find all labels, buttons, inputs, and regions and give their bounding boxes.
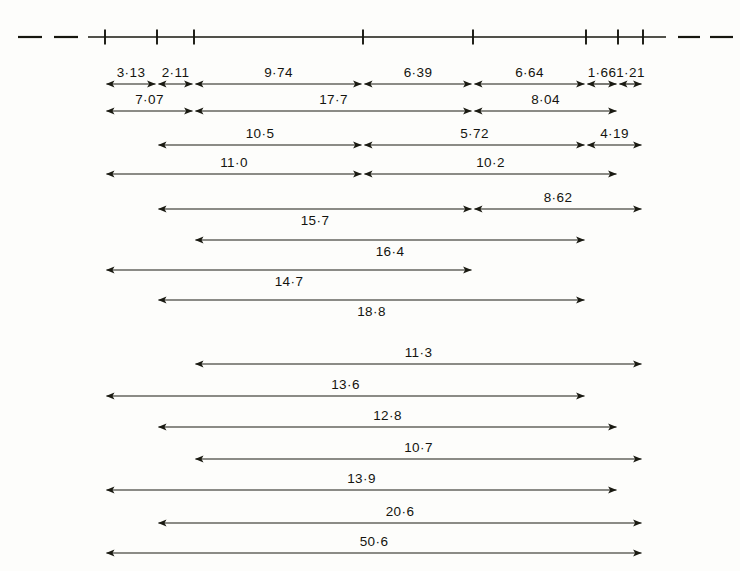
dimension-diagram-figure: 3·132·119·746·396·641·661·217·0717·78·04… <box>0 0 740 571</box>
dimension-value-label: 14·7 <box>275 274 304 289</box>
dimension-value-label: 9·74 <box>264 65 293 80</box>
dimension-segment: 50·6 <box>107 534 642 553</box>
dimension-value-label: 13·9 <box>347 471 376 486</box>
dimension-value-label: 8·62 <box>544 190 573 205</box>
dimension-value-label: 1·21 <box>616 65 645 80</box>
dimension-value-label: 11·0 <box>220 155 248 170</box>
dimension-value-label: 8·04 <box>531 92 560 107</box>
dimension-row: 11·3 <box>196 345 642 364</box>
dimension-value-label: 2·11 <box>162 65 190 80</box>
dimension-value-label: 4·19 <box>600 126 629 141</box>
dimension-row: 20·6 <box>159 504 642 523</box>
dimension-segment: 3·13 <box>107 65 156 84</box>
dimension-segment: 10·2 <box>365 155 617 174</box>
dimension-segment: 13·6 <box>107 377 585 396</box>
dimension-value-label: 11·3 <box>405 345 433 360</box>
dimension-segment: 2·11 <box>159 65 193 84</box>
dimension-segment: 13·9 <box>107 471 617 490</box>
dimension-segment: 16·4 <box>196 240 585 259</box>
dimension-segment: 17·7 <box>196 92 472 111</box>
dimension-row: 11·010·2 <box>107 155 617 174</box>
dimension-value-label: 3·13 <box>117 65 146 80</box>
dimension-segment: 10·7 <box>196 440 642 459</box>
dimension-segment: 14·7 <box>107 270 472 289</box>
dimension-value-label: 15·7 <box>301 213 330 228</box>
dimension-row: 3·132·119·746·396·641·661·21 <box>107 65 645 84</box>
dimension-row: 7·0717·78·04 <box>107 92 617 111</box>
dimension-value-label: 10·5 <box>246 126 275 141</box>
dimension-segment: 11·3 <box>196 345 642 364</box>
dimension-segment: 1·66 <box>588 65 617 84</box>
dimension-row: 13·9 <box>107 471 617 490</box>
dimension-segment: 12·8 <box>159 408 617 427</box>
dimension-value-label: 18·8 <box>357 304 386 319</box>
dimension-value-label: 10·7 <box>404 440 433 455</box>
dimension-value-label: 12·8 <box>373 408 402 423</box>
dimension-row: 10·55·724·19 <box>159 126 642 145</box>
dimension-value-label: 17·7 <box>319 92 348 107</box>
dimension-row: 14·7 <box>107 270 472 289</box>
dimension-value-label: 7·07 <box>135 92 164 107</box>
dimension-row: 15·78·62 <box>159 190 642 228</box>
dimension-segment: 6·64 <box>475 65 585 84</box>
dimension-value-label: 10·2 <box>476 155 505 170</box>
dimension-row: 50·6 <box>107 534 642 553</box>
dimension-value-label: 16·4 <box>376 244 405 259</box>
dimension-segment: 8·04 <box>475 92 617 111</box>
dimension-segment: 1·21 <box>616 65 645 84</box>
dimension-segment: 6·39 <box>365 65 472 84</box>
dimension-segment: 18·8 <box>159 300 585 319</box>
dimension-value-label: 6·39 <box>404 65 433 80</box>
dimension-row: 18·8 <box>159 300 585 319</box>
dimension-row: 12·8 <box>159 408 617 427</box>
dimension-segment: 10·5 <box>159 126 362 145</box>
dimension-value-label: 6·64 <box>515 65 544 80</box>
dimension-segment: 9·74 <box>196 65 362 84</box>
dimension-segment: 11·0 <box>107 155 362 174</box>
dimension-value-label: 13·6 <box>331 377 360 392</box>
dimension-segment: 8·62 <box>475 190 642 209</box>
dimension-rows: 3·132·119·746·396·641·661·217·0717·78·04… <box>107 65 645 553</box>
dimension-row: 10·7 <box>196 440 642 459</box>
dimension-row: 16·4 <box>196 240 585 259</box>
dimension-segment: 15·7 <box>159 209 472 228</box>
dimension-value-label: 1·66 <box>588 65 617 80</box>
dimension-segment: 5·72 <box>365 126 585 145</box>
figure-canvas: 3·132·119·746·396·641·661·217·0717·78·04… <box>0 0 740 571</box>
dimension-value-label: 5·72 <box>460 126 489 141</box>
dimension-row: 13·6 <box>107 377 585 396</box>
dimension-segment: 4·19 <box>588 126 642 145</box>
dimension-segment: 7·07 <box>107 92 193 111</box>
dimension-value-label: 50·6 <box>360 534 389 549</box>
scale-axis <box>18 30 733 45</box>
dimension-segment: 20·6 <box>159 504 642 523</box>
dimension-value-label: 20·6 <box>386 504 415 519</box>
